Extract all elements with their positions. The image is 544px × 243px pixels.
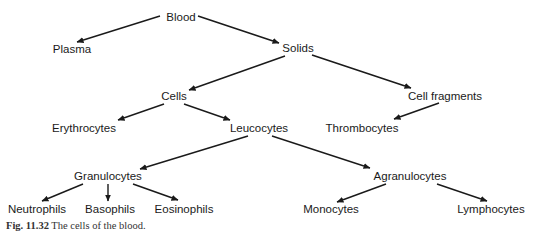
- node-blood: Blood: [166, 10, 195, 24]
- node-monocytes: Monocytes: [303, 202, 359, 216]
- node-thrombocytes: Thrombocytes: [326, 121, 399, 135]
- node-agranulocytes: Agranulocytes: [374, 169, 447, 183]
- blood-cells-tree-diagram: Blood Plasma Solids Cells Cell fragments…: [0, 0, 544, 243]
- arrow-leucocytes-to-agranulocytes: [272, 136, 370, 168]
- arrow-solids-to-cells: [189, 56, 285, 90]
- node-neutrophils: Neutrophils: [8, 202, 66, 216]
- node-basophils: Basophils: [85, 202, 135, 216]
- arrow-solids-to-cell_fragments: [312, 55, 411, 88]
- figure-caption: Fig. 11.32 The cells of the blood.: [6, 220, 146, 231]
- figure-caption-text: The cells of the blood.: [51, 220, 145, 231]
- node-plasma: Plasma: [53, 42, 91, 56]
- arrow-blood-to-solids: [198, 16, 279, 43]
- arrow-agranulocytes-to-monocytes: [337, 184, 386, 202]
- node-cells: Cells: [161, 89, 187, 103]
- node-leucocytes: Leucocytes: [230, 121, 288, 135]
- node-granulocytes: Granulocytes: [74, 169, 142, 183]
- arrow-cells-to-erythrocytes: [118, 104, 164, 120]
- node-solids: Solids: [282, 41, 313, 55]
- figure-number: Fig. 11.32: [6, 220, 49, 231]
- node-eosinophils: Eosinophils: [155, 202, 214, 216]
- arrow-agranulocytes-to-lymphocytes: [437, 184, 487, 201]
- arrow-cell_fragments-to-thrombocytes: [394, 103, 439, 119]
- node-cell-fragments: Cell fragments: [408, 89, 482, 103]
- arrow-leucocytes-to-granulocytes: [140, 136, 248, 169]
- arrow-cells-to-leucocytes: [184, 104, 230, 120]
- arrow-granulocytes-to-eosinophils: [133, 184, 178, 200]
- arrow-blood-to-plasma: [77, 16, 160, 42]
- node-lymphocytes: Lymphocytes: [457, 202, 524, 216]
- arrow-granulocytes-to-neutrophils: [42, 184, 83, 201]
- node-erythrocytes: Erythrocytes: [52, 121, 116, 135]
